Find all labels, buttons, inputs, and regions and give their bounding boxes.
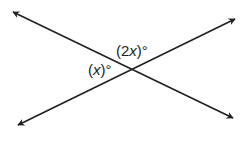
angle-label-2x: (2x)° bbox=[116, 42, 148, 59]
diagram-canvas: (2x)° (x)° bbox=[0, 0, 244, 141]
angle-label-x: (x)° bbox=[88, 61, 112, 78]
line-descending bbox=[13, 12, 233, 118]
line-ascending bbox=[18, 19, 235, 125]
